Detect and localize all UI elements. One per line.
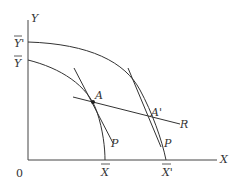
price-line-a-label: P xyxy=(110,137,119,150)
price-line-a-prime-label: P xyxy=(163,137,172,150)
inner-ppf-curve xyxy=(28,60,105,160)
point-a-label: A xyxy=(94,89,103,102)
y-prime-intercept-label: Y' xyxy=(14,37,24,50)
origin-label: 0 xyxy=(16,167,23,180)
x-axis-label: X xyxy=(219,153,229,166)
x-prime-intercept-label: X' xyxy=(161,166,173,179)
y-intercept-label: Y xyxy=(14,57,23,70)
point-a-prime-label: A' xyxy=(150,106,162,119)
x-intercept-label: X xyxy=(100,166,110,179)
ray-r xyxy=(73,97,180,124)
diagram-svg: Y X 0 Y' Y X X' A A' P P R xyxy=(0,0,240,189)
ray-label: R xyxy=(179,118,188,131)
ppf-diagram: Y X 0 Y' Y X X' A A' P P R xyxy=(0,0,240,189)
y-axis-label: Y xyxy=(31,12,40,25)
